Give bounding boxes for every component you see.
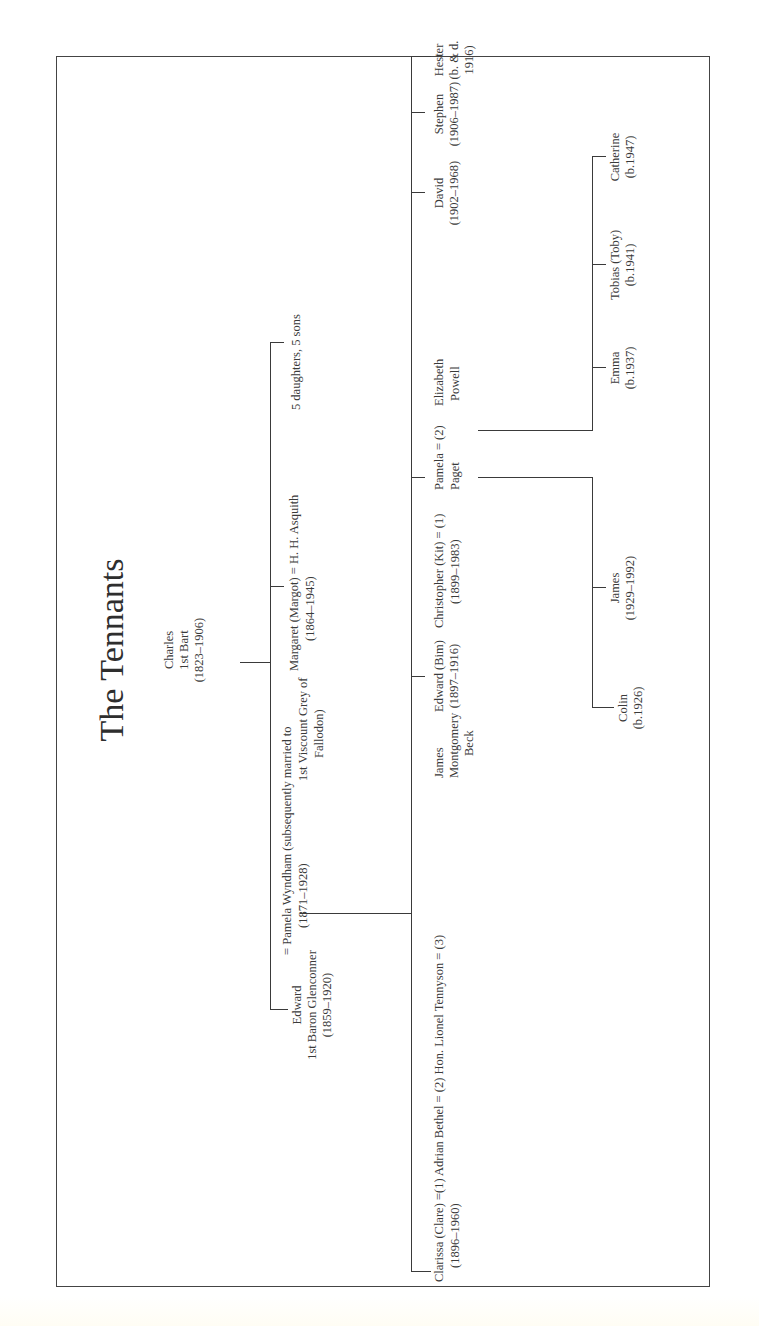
descent-line xyxy=(478,477,593,478)
dates: (1859–1920) xyxy=(320,930,335,1080)
name: David xyxy=(432,153,447,233)
dates: (b.1947) xyxy=(623,122,638,192)
person-hester: Hester (b. & d. 1916) xyxy=(432,30,477,90)
spouse-pamela-paget: Pamela = (2) xyxy=(432,425,447,490)
dates: (1897–1916) xyxy=(447,636,462,716)
sibling-bar xyxy=(592,477,593,708)
person-edward: Edward 1st Baron Glenconner (1859–1920) xyxy=(290,930,335,1080)
dates: (1823–1906) xyxy=(192,590,207,710)
dates: (1902–1968) xyxy=(447,153,462,233)
spouse-james-beck: James Montgomery Beck xyxy=(432,713,477,778)
dates: (b.1937) xyxy=(623,333,638,403)
connector xyxy=(592,707,614,708)
name: James xyxy=(608,543,623,633)
person-emma: Emma (b.1937) xyxy=(608,333,638,403)
sibling-bar xyxy=(592,156,593,431)
pamela-paget-surname: Paget xyxy=(448,462,463,490)
connector xyxy=(411,192,425,193)
pamela-wyndham-dates: (1871–1928) xyxy=(296,863,311,928)
person-james: James (1929–1992) xyxy=(608,543,638,633)
spouse-elizabeth-powell: Elizabeth xyxy=(432,359,447,406)
margaret-dates: (1864–1945) xyxy=(303,576,318,641)
connector xyxy=(592,264,606,265)
dates: (b. & d. xyxy=(447,30,462,90)
line: Montgomery xyxy=(447,713,462,778)
name: Edward (Bim) xyxy=(432,636,447,716)
dates: (b.1941) xyxy=(623,220,638,310)
name: Emma xyxy=(608,333,623,403)
connector xyxy=(411,676,425,677)
elizabeth-powell-surname: Powell xyxy=(448,366,463,401)
christopher-dates: (1899–1983) xyxy=(448,539,463,604)
person-clarissa: Clarissa (Clare) =(1) Adrian Bethel = (2… xyxy=(432,935,447,1282)
connector xyxy=(592,587,606,588)
connector xyxy=(270,342,284,343)
name: Charles xyxy=(162,590,177,710)
connector xyxy=(270,1009,288,1010)
name: Hester xyxy=(432,30,447,90)
other-children: 5 daughters, 5 sons xyxy=(289,314,304,410)
name: Catherine xyxy=(608,122,623,192)
spouse-pamela-wyndham: = Pamela Wyndham (subsequently married t… xyxy=(280,726,295,955)
pamela-wyndham-note: 1st Viscount Grey of xyxy=(296,677,311,781)
line: James xyxy=(432,713,447,778)
connector xyxy=(240,662,270,663)
person-charles: Charles 1st Bart (1823–1906) xyxy=(162,590,207,710)
diagram-title: The Tennants xyxy=(92,530,132,770)
connector xyxy=(592,367,606,368)
family-tree: The Tennants Charles 1st Bart (1823–1906… xyxy=(0,0,759,1326)
name: Tobias (Toby) xyxy=(608,220,623,310)
line: Beck xyxy=(462,713,477,756)
descent-line xyxy=(300,913,412,914)
sibling-bar xyxy=(411,57,412,1272)
person-edward-bim: Edward (Bim) (1897–1916) xyxy=(432,636,462,716)
person-tobias: Tobias (Toby) (b.1941) xyxy=(608,220,638,310)
dates: 1916) xyxy=(462,30,477,90)
person-colin: Colin (b.1926) xyxy=(616,678,646,738)
title: 1st Bart xyxy=(177,590,192,710)
connector xyxy=(411,1271,431,1272)
connector xyxy=(592,156,606,157)
person-margaret: Margaret (Margot) = H. H. Asquith xyxy=(287,495,302,671)
name: Colin xyxy=(616,678,631,738)
pamela-wyndham-note-2: Fallodon) xyxy=(312,709,327,758)
title: 1st Baron Glenconner xyxy=(305,930,320,1080)
clarissa-dates: (1896–1960) xyxy=(448,1203,463,1268)
connector xyxy=(411,112,425,113)
dates: (b.1926) xyxy=(631,678,646,738)
dates: (1929–1992) xyxy=(623,543,638,633)
page-edge xyxy=(0,1296,759,1326)
sibling-bar xyxy=(270,342,271,1010)
connector xyxy=(270,586,284,587)
descent-line xyxy=(478,430,593,431)
person-david: David (1902–1968) xyxy=(432,153,462,233)
person-christopher: Christopher (Kit) = (1) xyxy=(432,514,447,628)
person-catherine: Catherine (b.1947) xyxy=(608,122,638,192)
connector xyxy=(411,56,431,57)
connector xyxy=(411,477,425,478)
